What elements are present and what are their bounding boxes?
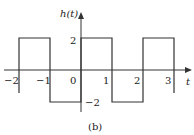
x-tick-0: 0 [70,75,76,86]
figure-caption: (b) [88,121,102,132]
x-axis-label: t [186,76,191,87]
x-tick-neg2: −2 [4,75,19,86]
y-tick-low: −2 [85,97,100,108]
x-tick-3: 3 [165,75,171,86]
y-axis-arrow-icon [78,12,84,19]
y-axis-label: h(t) [60,8,78,19]
y-tick-high: 2 [70,35,76,46]
x-tick-neg1: −1 [36,75,51,86]
square-wave-diagram: h(t) t 2 −2 −2 −1 0 1 2 3 (b) [0,0,194,135]
x-tick-1: 1 [103,75,109,86]
x-axis-arrow-icon [185,67,192,73]
x-tick-2: 2 [134,75,140,86]
